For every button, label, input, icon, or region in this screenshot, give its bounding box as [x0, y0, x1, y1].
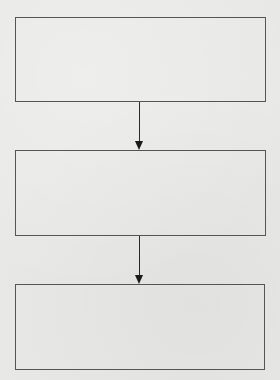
arrowhead-down-icon: [135, 141, 143, 150]
flowchart-box-2: [15, 150, 266, 236]
flowchart-box-3: [15, 284, 265, 370]
arrowhead-down-icon: [135, 275, 143, 284]
connector-1-to-2: [139, 102, 140, 142]
flowchart-box-1: [15, 17, 266, 102]
connector-2-to-3: [139, 236, 140, 275]
